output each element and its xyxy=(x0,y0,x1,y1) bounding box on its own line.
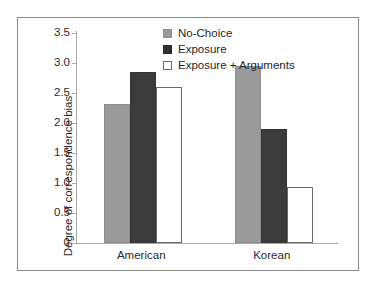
legend-label: No-Choice xyxy=(178,28,232,39)
y-tick-label: 1.0 xyxy=(10,177,70,188)
bar-american-series-2 xyxy=(156,87,182,243)
bar-american-series-1 xyxy=(130,72,156,243)
legend-label: Exposure xyxy=(178,44,227,55)
bar-korean-series-2 xyxy=(287,187,313,243)
x-axis-line xyxy=(76,243,338,244)
y-tick-label: 3.5 xyxy=(10,27,70,38)
y-tick-label: 1.5 xyxy=(10,147,70,158)
y-tick-label: 3.0 xyxy=(10,57,70,68)
bar-korean-series-1 xyxy=(261,129,287,243)
category-label-american: American xyxy=(76,249,207,261)
y-axis-tick-labels: 00.51.01.52.02.53.03.5 xyxy=(6,0,70,288)
bar-american-series-0 xyxy=(104,104,130,243)
y-tick-label: 2.5 xyxy=(10,87,70,98)
y-tick-label: 0.5 xyxy=(10,207,70,218)
figure: Degree of correspondence bias 00.51.01.5… xyxy=(0,0,377,288)
legend-swatch-icon xyxy=(163,29,172,38)
bar-korean-series-0 xyxy=(235,66,261,243)
y-axis-line xyxy=(76,31,77,244)
y-tick-label: 2.0 xyxy=(10,117,70,128)
legend-label: Exposure + Arguments xyxy=(178,60,295,71)
legend: No-ChoiceExposureExposure + Arguments xyxy=(163,27,295,75)
legend-item-0: No-Choice xyxy=(163,27,295,40)
y-tick-label: 0 xyxy=(10,237,70,248)
legend-item-2: Exposure + Arguments xyxy=(163,59,295,72)
legend-item-1: Exposure xyxy=(163,43,295,56)
legend-swatch-icon xyxy=(163,45,172,54)
legend-swatch-icon xyxy=(163,61,172,70)
category-label-korean: Korean xyxy=(207,249,338,261)
